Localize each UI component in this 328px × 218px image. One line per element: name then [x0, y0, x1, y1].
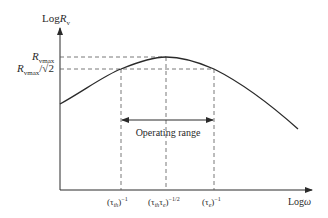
x-tick-tau-center: (τthτe)−1/2 — [148, 196, 180, 208]
y-axis-label: LogRv — [42, 12, 70, 27]
responsivity-diagram: Operating range LogRv Rvmax Rvmax/√2 (τt… — [0, 0, 328, 218]
x-tick-tau-e: (τe)−1 — [202, 196, 221, 208]
x-tick-tau-th: (τth)−1 — [107, 196, 128, 208]
x-axis-label: Logω — [288, 196, 311, 207]
operating-range-label: Operating range — [136, 127, 201, 138]
response-curve — [60, 57, 298, 129]
y-tick-rvmax-sqrt2: Rvmax/√2 — [16, 62, 54, 77]
